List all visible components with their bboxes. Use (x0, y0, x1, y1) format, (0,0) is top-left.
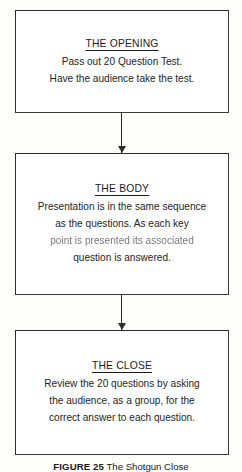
figure-caption-label: FIGURE 25 (53, 461, 103, 472)
arrowhead-down-icon (118, 323, 126, 330)
node-body-body: Presentation is in the same sequence as … (38, 199, 206, 265)
flowchart-node-close: THE CLOSE Review the 20 questions by ask… (15, 330, 229, 455)
node-text-line: Pass out 20 Question Test. (62, 54, 182, 69)
flowchart-node-body: THE BODY Presentation is in the same seq… (15, 153, 229, 295)
figure-caption-text: The Shotgun Close (107, 461, 189, 472)
node-text-line: point is presented its associated (50, 233, 194, 248)
node-text-line: question is answered. (73, 250, 171, 265)
figure-caption: FIGURE 25 The Shotgun Close (0, 461, 242, 472)
node-text-line: correct answer to each question. (49, 410, 195, 425)
node-body-close: Review the 20 questions by asking the au… (44, 376, 199, 425)
node-text-line: Presentation is in the same sequence (38, 199, 206, 214)
node-text-line: the audience, as a group, for the (49, 393, 194, 408)
flowchart-node-opening: THE OPENING Pass out 20 Question Test. H… (15, 10, 229, 113)
node-title-opening: THE OPENING (85, 38, 158, 49)
node-text-line: as the questions. As each key (55, 216, 189, 231)
node-text-line: Review the 20 questions by asking (44, 376, 199, 391)
arrowhead-down-icon (118, 146, 126, 153)
node-title-body: THE BODY (95, 183, 149, 194)
node-body-opening: Pass out 20 Question Test. Have the audi… (50, 54, 195, 86)
node-text-line: Have the audience take the test. (50, 71, 195, 86)
node-title-close: THE CLOSE (92, 360, 152, 371)
